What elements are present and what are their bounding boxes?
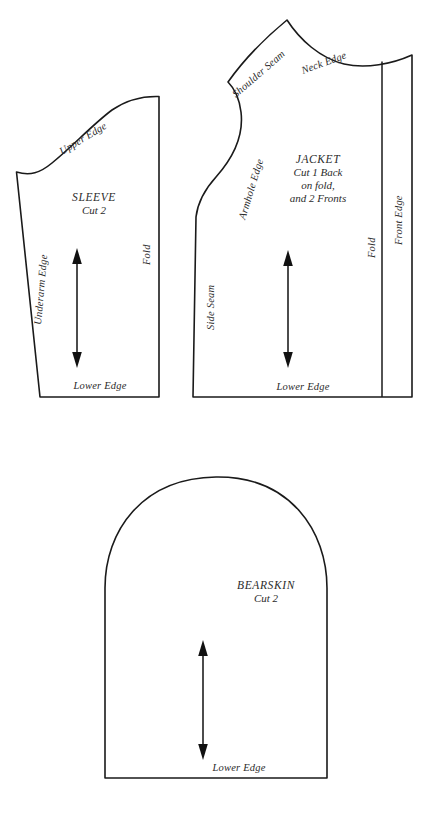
pattern-diagram: Upper Edge Underarm Edge Fold Lower Edge… xyxy=(0,0,433,815)
jacket-label-lower-edge: Lower Edge xyxy=(275,381,329,392)
pattern-sheet: Upper Edge Underarm Edge Fold Lower Edge… xyxy=(0,0,433,815)
sleeve-cut-instruction: Cut 2 xyxy=(82,204,107,216)
jacket-label-side-seam: Side Seam xyxy=(205,285,216,330)
jacket-label-fold: Fold xyxy=(366,237,377,259)
jacket-label-front-edge: Front Edge xyxy=(393,195,404,246)
bearskin-outline xyxy=(105,477,327,778)
sleeve-title: SLEEVE xyxy=(72,191,116,203)
pattern-piece-jacket: Shoulder Seam Neck Edge Armhole Edge Sid… xyxy=(193,20,412,397)
jacket-outline xyxy=(193,20,412,397)
bearskin-label-lower-edge: Lower Edge xyxy=(211,762,265,773)
pattern-piece-bearskin: BEARSKIN Cut 2 Lower Edge xyxy=(105,477,327,778)
jacket-cut-line-1: Cut 1 Back xyxy=(294,166,344,178)
bearskin-title: BEARSKIN xyxy=(237,579,296,591)
jacket-cut-line-3: and 2 Fronts xyxy=(290,192,346,204)
sleeve-label-fold: Fold xyxy=(141,244,152,266)
jacket-cut-line-2: on fold, xyxy=(301,179,335,191)
bearskin-cut-instruction: Cut 2 xyxy=(254,592,279,604)
sleeve-label-lower-edge: Lower Edge xyxy=(72,380,126,391)
jacket-title: JACKET xyxy=(296,153,341,165)
pattern-piece-sleeve: Upper Edge Underarm Edge Fold Lower Edge… xyxy=(17,96,160,397)
